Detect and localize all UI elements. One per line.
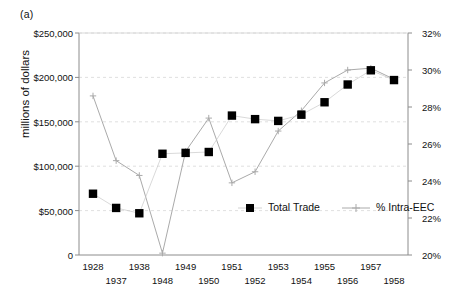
y-tick-right: 26% bbox=[422, 139, 462, 150]
legend-item-total-trade: Total Trade bbox=[268, 201, 320, 213]
y-tick-right: 30% bbox=[422, 65, 462, 76]
y-tick-left: 0 bbox=[3, 250, 73, 261]
x-tick: 1953 bbox=[256, 261, 300, 272]
legend-swatch-square bbox=[246, 204, 254, 212]
x-tick: 1958 bbox=[372, 275, 416, 286]
y-tick-left: $50,000 bbox=[3, 205, 73, 216]
x-tick: 1928 bbox=[71, 261, 115, 272]
figure-panel: (a) millions of dollars 0$50,000$100,000… bbox=[0, 0, 476, 295]
x-tick: 1950 bbox=[187, 275, 231, 286]
x-tick: 1951 bbox=[210, 261, 254, 272]
y-tick-right: 20% bbox=[422, 250, 462, 261]
y-tick-right: 28% bbox=[422, 102, 462, 113]
y-tick-left: $200,000 bbox=[3, 72, 73, 83]
y-tick-left: $100,000 bbox=[3, 161, 73, 172]
y-tick-left: $250,000 bbox=[3, 28, 73, 39]
x-tick: 1954 bbox=[279, 275, 323, 286]
legend-item-intra-eec: % Intra-EEC bbox=[376, 201, 434, 213]
x-tick: 1948 bbox=[140, 275, 184, 286]
y-tick-left: $150,000 bbox=[3, 116, 73, 127]
x-tick: 1955 bbox=[303, 261, 347, 272]
y-tick-right: 32% bbox=[422, 28, 462, 39]
x-tick: 1949 bbox=[164, 261, 208, 272]
x-tick: 1956 bbox=[326, 275, 370, 286]
x-tick: 1952 bbox=[233, 275, 277, 286]
x-tick: 1957 bbox=[349, 261, 393, 272]
x-tick: 1938 bbox=[117, 261, 161, 272]
y-tick-right: 24% bbox=[422, 176, 462, 187]
x-tick: 1937 bbox=[94, 275, 138, 286]
